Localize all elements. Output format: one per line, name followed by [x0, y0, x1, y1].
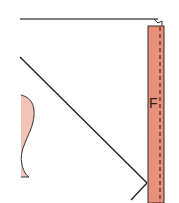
diagonal-edge-line	[20, 57, 147, 183]
lower-diagonal-line	[131, 183, 147, 200]
strip-label: F	[149, 96, 158, 110]
facing-strip	[148, 26, 164, 203]
fold-tab	[154, 19, 162, 26]
